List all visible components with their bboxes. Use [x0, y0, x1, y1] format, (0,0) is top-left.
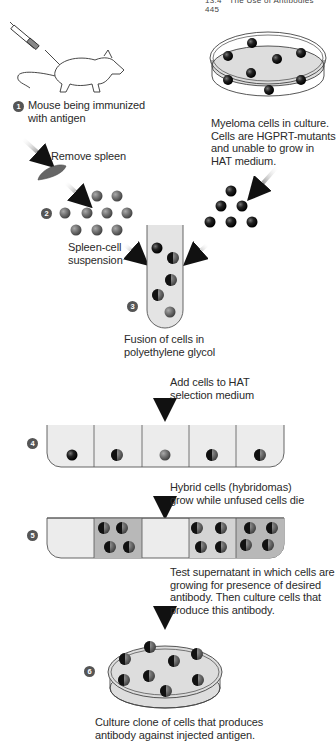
remove-spleen-label: Remove spleen — [51, 150, 126, 163]
myeloma-label: Myeloma cells in culture. Cells are HGPR… — [211, 117, 336, 167]
arrow-to-spleen-cells — [65, 182, 84, 200]
spleen-icon — [38, 165, 66, 180]
step-1-badge: 1 — [13, 101, 24, 112]
step-3-badge: 3 — [127, 301, 138, 312]
arrow-remove-spleen — [22, 138, 46, 160]
spleen-cells — [60, 191, 133, 236]
step-6-badge: 6 — [84, 666, 95, 677]
myeloma-culture-dish — [210, 32, 326, 96]
hybrid-grow-label: Hybrid cells (hybridomas) grow while unf… — [170, 481, 304, 506]
fusion-test-tube — [147, 225, 183, 328]
step-6-label: Culture clone of cells that produces ant… — [95, 716, 263, 741]
syringe-icon — [10, 22, 66, 71]
arrow-from-myeloma — [255, 166, 278, 192]
test-supernatant-label: Test supernatant in which cells are grow… — [170, 566, 335, 616]
arrow-myeloma-to-tube — [192, 244, 208, 258]
clone-culture-dish — [108, 641, 222, 708]
wells-step-5 — [47, 518, 284, 558]
wells-step-4 — [47, 425, 284, 467]
step-2-label: Spleen-cell suspension — [68, 241, 123, 266]
step-1-label: Mouse being immunized with antigen — [28, 99, 145, 124]
mouse-icon — [18, 50, 124, 92]
add-hat-label: Add cells to HAT selection medium — [170, 376, 254, 401]
step-4-badge: 4 — [27, 438, 38, 449]
step-2-badge: 2 — [41, 208, 52, 219]
arrow-spleen-to-tube — [124, 244, 140, 258]
myeloma-cells — [205, 186, 258, 228]
step-5-badge: 5 — [27, 530, 38, 541]
step-3-label: Fusion of cells in polyethylene glycol — [124, 333, 215, 358]
